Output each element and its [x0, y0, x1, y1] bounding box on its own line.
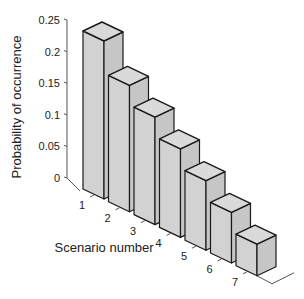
y-axis: 00.050.10.150.20.25	[39, 14, 67, 184]
x-tick-label: 6	[206, 263, 212, 275]
bar-chart-3d: 00.050.10.150.20.25 1234567 Probability …	[0, 0, 304, 299]
y-tick	[64, 19, 67, 20]
x-tick-label: 2	[104, 212, 110, 224]
x-tick-label: 4	[155, 237, 161, 249]
x-tick	[218, 259, 222, 261]
bar-7	[236, 225, 276, 276]
y-tick-label: 0.05	[39, 140, 60, 152]
x-tick	[90, 195, 94, 197]
x-tick	[116, 208, 120, 210]
y-tick-label: 0.15	[39, 77, 60, 89]
y-tick-label: 0.2	[45, 46, 60, 58]
bars	[83, 22, 276, 276]
y-tick-label: 0.1	[45, 109, 60, 121]
x-tick	[192, 246, 196, 248]
x-tick-label: 3	[130, 225, 136, 237]
x-tick-label: 1	[79, 199, 85, 211]
x-axis-title: Scenario number	[55, 240, 155, 255]
x-tick	[167, 233, 171, 235]
y-tick-label: 0	[54, 172, 60, 184]
y-tick-label: 0.25	[39, 14, 60, 26]
y-axis-title: Probability of occurrence	[9, 35, 24, 178]
x-tick-label: 7	[232, 276, 238, 288]
x-tick	[141, 221, 145, 223]
x-tick-label: 5	[181, 250, 187, 262]
x-tick	[243, 272, 247, 274]
